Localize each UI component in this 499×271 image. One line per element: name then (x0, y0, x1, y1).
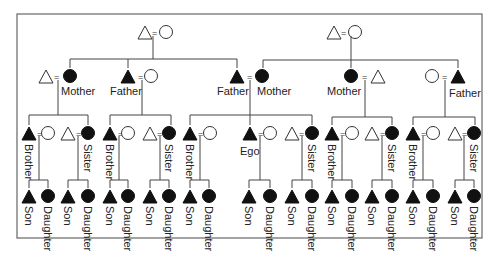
label-mother: Mother (61, 85, 96, 97)
label-daughter: Daughter (386, 206, 398, 252)
child-pair: Son Daughter (448, 190, 481, 252)
label-daughter: Daughter (427, 206, 439, 252)
label-mother: Mother (327, 85, 362, 97)
child-pair: Son Daughter (365, 190, 399, 252)
label-son: Son (62, 206, 74, 226)
label-daughter: Daughter (264, 206, 276, 252)
child-pair: Son Daughter (325, 190, 359, 252)
marriage-sign: = (341, 28, 346, 38)
svg-text:=: = (340, 129, 345, 139)
label-son: Son (184, 206, 196, 226)
diagram-frame (17, 14, 482, 238)
label-son: Son (366, 206, 378, 226)
child-pair: Son Daughter (143, 190, 176, 252)
label-sister: Sister (306, 144, 318, 172)
paternal-grandparents: = (138, 26, 173, 40)
ego-mother-icon (256, 70, 269, 83)
grandfather-icon (138, 26, 152, 39)
label-father: Father (449, 87, 481, 99)
child-pair: Son Daughter (183, 190, 216, 252)
label-ego: Ego (240, 145, 260, 157)
svg-text:=: = (76, 129, 81, 139)
label-brother: Brother (184, 144, 196, 180)
grandfather-icon (327, 26, 341, 39)
svg-text:=: = (380, 129, 385, 139)
child-pair: Son Daughter (22, 190, 55, 252)
label-daughter: Daughter (468, 206, 480, 252)
uncle-by-marriage-icon (39, 70, 53, 83)
label-sister: Sister (386, 144, 398, 172)
label-daughter: Daughter (122, 206, 134, 252)
uncle-by-marriage-icon (371, 70, 385, 83)
aunt-by-marriage-icon (145, 70, 158, 83)
label-son: Son (23, 206, 35, 226)
label-daughter: Daughter (203, 206, 215, 252)
label-daughter: Daughter (82, 206, 94, 252)
aunt-by-marriage-icon (426, 70, 439, 83)
kinship-diagram: = = = Mother = Father = Father Mother = … (0, 0, 499, 271)
label-daughter: Daughter (42, 206, 54, 252)
label-son: Son (243, 206, 255, 226)
label-father: Father (110, 85, 142, 97)
label-daughter: Daughter (163, 206, 175, 252)
father-icon (121, 70, 135, 83)
label-son: Son (326, 206, 338, 226)
father-icon (451, 70, 465, 83)
label-father: Father (217, 85, 249, 97)
label-daughter: Daughter (346, 206, 358, 252)
label-brother: Brother (104, 144, 116, 180)
mother-icon (64, 70, 77, 83)
label-brother: Brother (23, 144, 35, 180)
label-sister: Sister (468, 144, 480, 172)
label-son: Son (104, 206, 116, 226)
maternal-grandparents: = (327, 26, 362, 40)
svg-text:=: = (421, 129, 426, 139)
label-son: Son (144, 206, 156, 226)
label-sister: Sister (82, 144, 94, 172)
label-son: Son (407, 206, 419, 226)
label-brother: Brother (326, 144, 338, 180)
grandmother-icon (160, 26, 173, 39)
child-pair: Son Daughter (61, 190, 95, 252)
label-mother: Mother (257, 85, 292, 97)
grandmother-icon (349, 26, 362, 39)
label-son: Son (286, 206, 298, 226)
label-son: Son (449, 206, 461, 226)
child-pair: Son Daughter (285, 190, 319, 252)
child-pair: Son Daughter (406, 190, 440, 252)
child-pair: Son Daughter (103, 190, 135, 252)
ego-father-icon (230, 70, 244, 83)
child-pair: Son Daughter (242, 190, 277, 252)
label-sister: Sister (163, 144, 175, 172)
children-row: Son Daughter Son Daughter Son Daughter S… (22, 190, 481, 252)
mother-icon (345, 70, 358, 83)
svg-text:=: = (258, 129, 263, 139)
svg-text:=: = (462, 129, 467, 139)
label-brother: Brother (407, 144, 419, 180)
label-daughter: Daughter (306, 206, 318, 252)
svg-text:=: = (198, 129, 203, 139)
